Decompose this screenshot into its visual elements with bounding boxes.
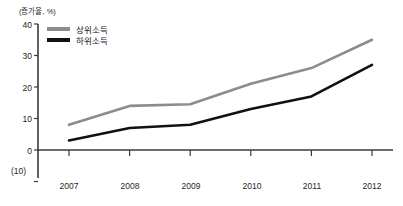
chart-legend: 상위소득 하위소득 — [47, 23, 108, 45]
line-series-lower-income — [69, 65, 372, 141]
x-tick-label-2007: 2007 — [49, 181, 89, 191]
x-tick-label-2008: 2008 — [110, 181, 150, 191]
y-tick-label-40: 40 — [10, 20, 32, 30]
legend-swatch-lower-income — [47, 38, 70, 42]
axis-lines — [38, 24, 393, 178]
y-tick-label-0: 0 — [10, 146, 32, 156]
y-tick-label-minus10: (10) — [4, 166, 26, 176]
legend-item-lower-income: 하위소득 — [47, 34, 108, 45]
legend-label-lower-income: 하위소득 — [76, 34, 108, 46]
growth-rate-line-chart: (증가율, %) 상위소득 하위소득 40 30 20 10 0 (10) 20… — [0, 0, 403, 206]
legend-item-upper-income: 상위소득 — [47, 23, 108, 34]
x-tick-label-2012: 2012 — [352, 181, 392, 191]
line-series-upper-income — [69, 40, 372, 125]
x-tick-label-2010: 2010 — [232, 181, 272, 191]
y-axis-unit-label: (증가율, %) — [19, 5, 56, 16]
legend-swatch-upper-income — [47, 27, 70, 31]
x-tick-label-2009: 2009 — [171, 181, 211, 191]
y-tick-label-20: 20 — [10, 83, 32, 93]
x-axis-tick-marks — [69, 150, 372, 156]
y-tick-label-10: 10 — [10, 114, 32, 124]
y-tick-label-30: 30 — [10, 51, 32, 61]
x-tick-label-2011: 2011 — [292, 181, 332, 191]
